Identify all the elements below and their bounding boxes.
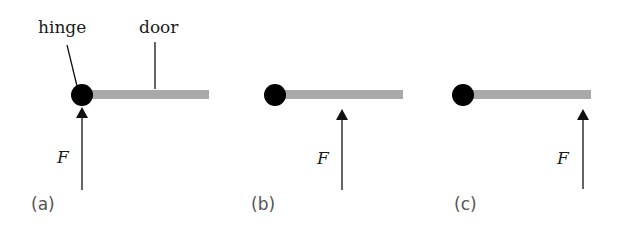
door-bar bbox=[88, 90, 209, 99]
force-label: F bbox=[56, 147, 70, 167]
arrowhead-icon bbox=[336, 109, 348, 120]
panel-label-a: (a) bbox=[31, 194, 55, 214]
force-label: F bbox=[316, 148, 330, 168]
door-bar bbox=[281, 90, 403, 99]
hinge-label: hinge bbox=[38, 17, 86, 37]
arrowhead-icon bbox=[577, 109, 589, 120]
force-label: F bbox=[556, 148, 570, 168]
hinge-leader-line bbox=[67, 45, 77, 86]
arrowhead-icon bbox=[76, 107, 88, 118]
hinge-icon bbox=[452, 84, 474, 106]
panel-b: F (b) bbox=[251, 84, 403, 214]
door-label: door bbox=[139, 17, 179, 37]
panel-a: hinge door F (a) bbox=[31, 17, 209, 214]
panel-label-c: (c) bbox=[454, 194, 477, 214]
hinge-icon bbox=[71, 84, 93, 106]
panel-c: F (c) bbox=[452, 84, 591, 214]
hinge-icon bbox=[264, 84, 286, 106]
panel-label-b: (b) bbox=[251, 194, 275, 214]
door-torque-diagram: hinge door F (a) F (b) F (c) bbox=[0, 0, 623, 229]
door-bar bbox=[469, 90, 591, 99]
